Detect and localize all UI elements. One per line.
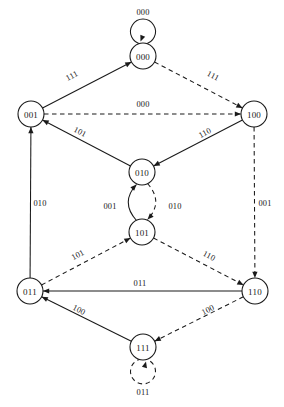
edge-label-000-100: 111 bbox=[205, 69, 220, 83]
edge-100-to-010-110 bbox=[154, 120, 243, 166]
edge-110-to-111-100 bbox=[155, 297, 244, 341]
edge-110-to-111-100-arrowhead bbox=[155, 336, 162, 341]
edge-000-to-100-111 bbox=[155, 62, 243, 108]
edge-000-to-100-111-arrowhead bbox=[236, 103, 243, 108]
edge-100-to-110-001 bbox=[254, 127, 255, 278]
edge-label-110-011: 011 bbox=[134, 279, 147, 288]
state-node-label-000: 000 bbox=[136, 52, 150, 62]
state-node-label-011: 011 bbox=[23, 287, 37, 297]
edge-label-100-110: 001 bbox=[258, 199, 271, 208]
edge-011-to-001-010 bbox=[30, 127, 31, 278]
edge-011-to-101-101 bbox=[42, 238, 131, 285]
state-node-111[interactable]: 111 bbox=[130, 334, 156, 360]
edge-010-to-101-010-arrowhead bbox=[148, 213, 154, 219]
edge-100-to-110-001-arrowhead bbox=[252, 272, 257, 278]
state-node-label-010: 010 bbox=[135, 168, 149, 178]
edge-000-to-000-000-arrowhead bbox=[140, 35, 145, 42]
edge-010-to-101-010 bbox=[148, 184, 156, 220]
edge-101-to-010-001 bbox=[128, 185, 136, 221]
edge-label-101-110: 110 bbox=[201, 249, 217, 263]
edge-111-to-111-011-arrowhead bbox=[142, 362, 147, 369]
state-node-000[interactable]: 000 bbox=[130, 43, 156, 69]
edge-110-to-011-011-arrowhead bbox=[43, 288, 49, 293]
edge-label-111-111: 011 bbox=[137, 388, 150, 397]
node-layer: 000001100010101011110111 bbox=[17, 43, 268, 360]
edge-101-to-010-001-arrowhead bbox=[130, 185, 136, 191]
state-diagram-canvas: 000001100010101011110111 000111111000101… bbox=[0, 0, 284, 407]
edge-010-to-001-101 bbox=[43, 120, 131, 166]
edge-label-011-101: 101 bbox=[70, 248, 86, 262]
edge-101-to-110-110 bbox=[154, 238, 244, 285]
edge-111-to-011-100 bbox=[42, 297, 132, 341]
edge-011-to-001-010-arrowhead bbox=[28, 127, 33, 133]
edge-label-111-011: 100 bbox=[71, 303, 87, 317]
state-node-010[interactable]: 010 bbox=[129, 159, 155, 185]
state-node-100[interactable]: 100 bbox=[241, 101, 267, 127]
edge-label-001-000: 111 bbox=[64, 69, 79, 83]
state-node-101[interactable]: 101 bbox=[129, 219, 155, 245]
edge-001-to-000-111 bbox=[43, 62, 132, 108]
state-node-label-100: 100 bbox=[247, 110, 261, 120]
state-node-label-001: 001 bbox=[24, 110, 38, 120]
edge-000-to-000-000 bbox=[131, 19, 156, 44]
state-node-011[interactable]: 011 bbox=[17, 278, 43, 304]
edge-001-to-100-000-arrowhead bbox=[235, 111, 241, 116]
state-node-110[interactable]: 110 bbox=[242, 278, 268, 304]
edge-layer bbox=[28, 19, 257, 384]
state-node-label-110: 110 bbox=[248, 287, 262, 297]
edge-101-to-110-110-arrowhead bbox=[237, 280, 244, 285]
state-node-label-111: 111 bbox=[136, 343, 149, 353]
edge-label-011-001: 010 bbox=[33, 199, 46, 208]
state-transition-graph: 000001100010101011110111 000111111000101… bbox=[0, 0, 284, 407]
state-node-label-101: 101 bbox=[135, 228, 149, 238]
edge-label-110-111: 100 bbox=[200, 303, 216, 317]
edge-011-to-101-101-arrowhead bbox=[124, 238, 131, 243]
edge-label-010-101: 010 bbox=[168, 202, 181, 211]
edge-label-000-000: 000 bbox=[136, 8, 149, 17]
edge-label-101-010: 001 bbox=[103, 202, 116, 211]
edge-label-100-010: 110 bbox=[197, 126, 213, 140]
edge-label-001-100: 000 bbox=[136, 100, 149, 109]
edge-111-to-111-011 bbox=[131, 359, 156, 384]
state-node-001[interactable]: 001 bbox=[18, 101, 44, 127]
